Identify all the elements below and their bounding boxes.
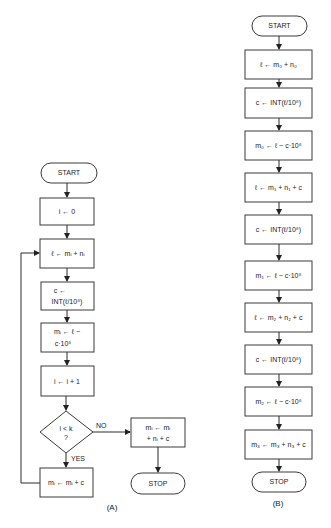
a-decision-label: i < k <box>59 425 73 432</box>
b-step-6-label: m₁ ← ℓ − c·10⁸ <box>256 272 302 279</box>
a-yes-label: YES <box>71 455 85 462</box>
a-step-mod-label-2: c·10⁸ <box>55 340 72 347</box>
a-step-carry-label-1: c ← <box>54 287 66 294</box>
b-step-3-label: m₀ ← ℓ − c·10⁸ <box>255 142 301 149</box>
b-step-6: m₁ ← ℓ − c·10⁸ <box>245 261 312 290</box>
a-step-init-i: i ← 0 <box>40 198 94 225</box>
a-step-final-sum: mᵢ ← mᵢ + nᵢ + c <box>131 418 185 447</box>
b-stop-label: STOP <box>270 478 289 485</box>
a-step-final-sum-label-2: + nᵢ + c <box>147 435 170 442</box>
a-step-carry-add-label: mᵢ ← mᵢ + c <box>48 479 85 486</box>
b-step-10: m₃ ← m₃ + n₃ + c <box>245 430 312 459</box>
a-step-mod-label-1: mᵢ ← ℓ − <box>54 328 80 335</box>
flowchart-b: START ℓ ← m₀ + n₀ c ← INT(ℓ/10⁸) m₀ ← ℓ … <box>245 16 312 508</box>
flowchart-a: START i ← 0 ℓ ← mᵢ + nᵢ c ← INT(ℓ/10⁸) m… <box>21 163 185 512</box>
b-step-5: c ← INT(ℓ/10⁸) <box>245 215 312 244</box>
b-step-2-label: c ← INT(ℓ/10⁸) <box>256 99 301 107</box>
b-step-10-label: m₃ ← m₃ + n₃ + c <box>251 441 306 448</box>
a-step-mod: mᵢ ← ℓ − c·10⁸ <box>41 323 94 352</box>
b-step-9: m₂ ← ℓ − c·10⁸ <box>245 387 312 416</box>
a-stop-label: STOP <box>149 480 168 487</box>
b-start-label: START <box>268 22 291 29</box>
a-decision-question: ? <box>64 434 68 441</box>
b-start-terminal: START <box>252 16 307 36</box>
b-step-9-label: m₂ ← ℓ − c·10⁸ <box>255 398 301 405</box>
a-step-increment: i ← i + 1 <box>41 366 94 396</box>
b-step-4: ℓ ← m₁ + n₁ + c <box>245 173 312 202</box>
b-step-3: m₀ ← ℓ − c·10⁸ <box>245 131 312 160</box>
a-step-carry-add: mᵢ ← mᵢ + c <box>40 468 93 497</box>
a-step-final-sum-label-1: mᵢ ← mᵢ <box>146 424 171 431</box>
b-step-8: c ← INT(ℓ/10⁸) <box>245 345 312 374</box>
b-step-7: ℓ ← m₂ + n₂ + c <box>245 303 312 332</box>
b-stop-terminal: STOP <box>252 472 306 492</box>
a-start-label: START <box>58 169 81 176</box>
b-step-1-label: ℓ ← m₀ + n₀ <box>259 61 297 68</box>
b-caption: (B) <box>273 499 284 508</box>
a-step-increment-label: i ← i + 1 <box>54 378 80 385</box>
b-step-8-label: c ← INT(ℓ/10⁸) <box>256 356 301 364</box>
a-step-sum: ℓ ← mᵢ + nᵢ <box>40 239 94 268</box>
a-caption: (A) <box>107 503 118 512</box>
b-step-2: c ← INT(ℓ/10⁸) <box>245 88 312 118</box>
a-loop-back-arrow <box>21 253 40 483</box>
flowchart-figure: START i ← 0 ℓ ← mᵢ + nᵢ c ← INT(ℓ/10⁸) m… <box>0 0 331 528</box>
a-step-carry: c ← INT(ℓ/10⁸) <box>41 282 94 310</box>
b-step-7-label: ℓ ← m₂ + n₂ + c <box>254 314 303 321</box>
a-decision-diamond: i < k ? <box>40 411 93 453</box>
a-step-sum-label: ℓ ← mᵢ + nᵢ <box>50 250 84 257</box>
b-step-5-label: c ← INT(ℓ/10⁸) <box>256 226 301 234</box>
b-step-1: ℓ ← m₀ + n₀ <box>245 50 312 79</box>
a-stop-terminal: STOP <box>131 473 185 494</box>
a-step-init-i-label: i ← 0 <box>59 208 75 215</box>
a-no-label: NO <box>96 422 107 429</box>
a-step-carry-label-2: INT(ℓ/10⁸) <box>52 298 83 306</box>
b-step-4-label: ℓ ← m₁ + n₁ + c <box>254 184 303 191</box>
a-start-terminal: START <box>41 163 97 183</box>
